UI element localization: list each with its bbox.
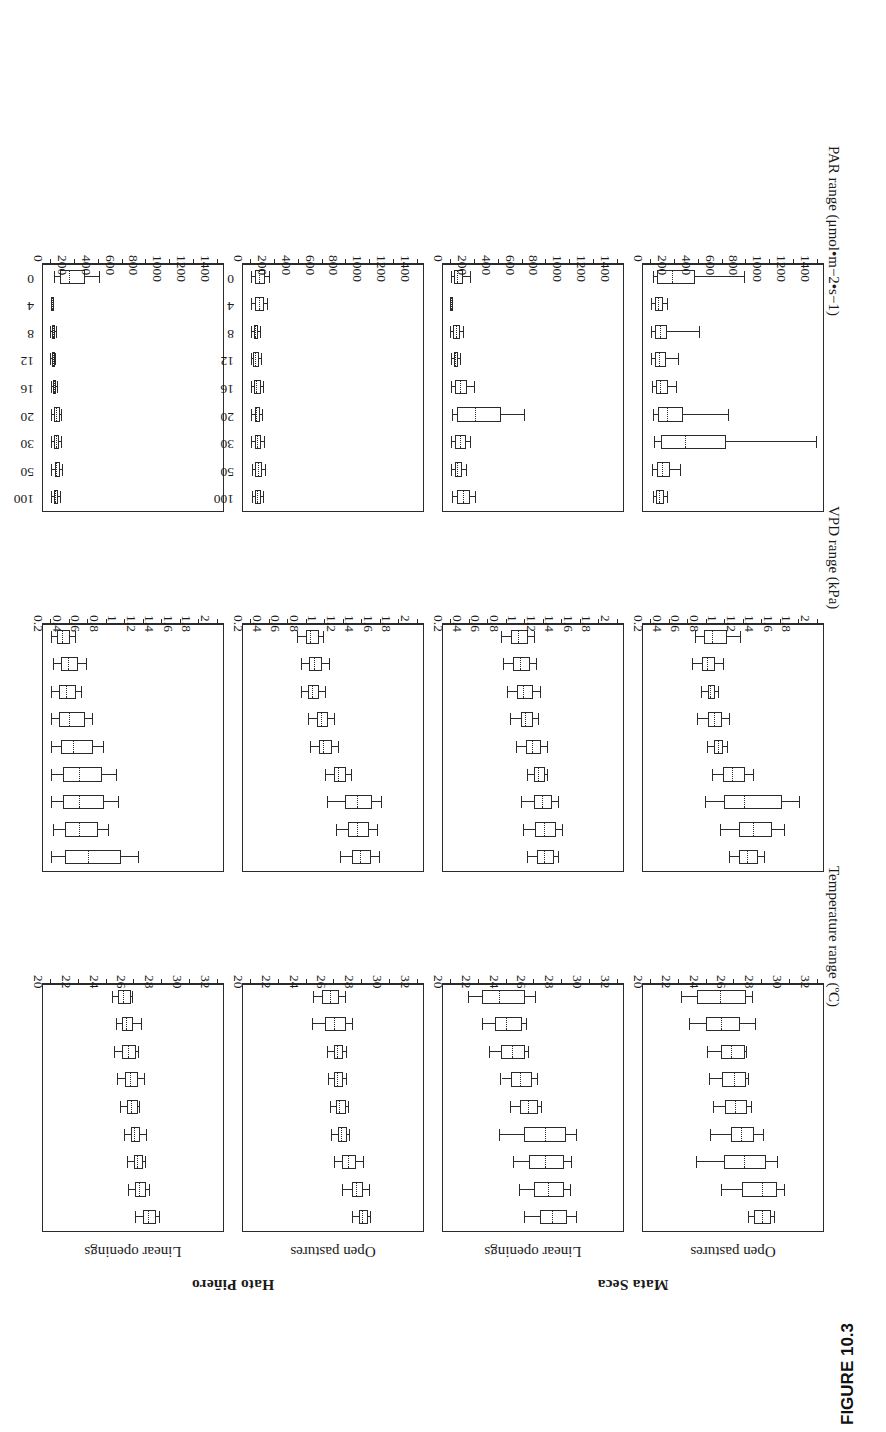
whisker-cap-upper (51, 631, 52, 643)
value-axis-tick (334, 979, 335, 984)
whisker-cap-lower (558, 796, 559, 808)
value-axis-tick-label: 0 (430, 255, 446, 262)
value-axis-tick (269, 619, 270, 624)
value-axis-tick-label: 800 (325, 255, 341, 275)
category-label-8: 8 (27, 326, 34, 342)
value-axis-tick (287, 619, 288, 624)
whisker-cap-lower (265, 464, 266, 476)
value-axis-tick (306, 619, 307, 624)
whisker-cap-lower (264, 436, 265, 448)
whisker-cap-lower (149, 1184, 150, 1196)
whisker-cap-lower (526, 1018, 527, 1030)
category-label-20: 20 (21, 409, 35, 425)
box-iqr (697, 990, 746, 1004)
median-line (339, 1101, 340, 1113)
box-iqr (706, 1017, 741, 1031)
value-axis-tick (398, 619, 399, 624)
whisker-cap-lower (534, 631, 535, 643)
median-line (660, 326, 661, 338)
median-line (744, 796, 745, 808)
median-line (456, 326, 457, 338)
median-line (123, 991, 124, 1003)
whisker-cap-lower (774, 1211, 775, 1223)
box-iqr (143, 1210, 156, 1224)
median-line (88, 851, 89, 863)
median-line (337, 1073, 338, 1085)
figure-rotation-wrapper: Mata SecaHato PiñeroOpen pasturesLinear … (0, 0, 886, 1340)
median-line (499, 991, 500, 1003)
value-axis-tick-label: 22 (258, 975, 274, 989)
plot-area (443, 985, 623, 1231)
median-line (735, 1101, 736, 1113)
box-iqr (537, 850, 554, 864)
whisker-cap-lower (329, 658, 330, 670)
whisker-cap-upper (507, 686, 508, 698)
box-iqr (457, 407, 501, 421)
value-axis-tick-label: 800 (125, 255, 141, 275)
median-line (53, 326, 54, 338)
whisker-cap-upper (251, 353, 252, 365)
whisker-cap-upper (251, 271, 252, 283)
value-axis-tick (543, 619, 544, 624)
whisker-cap-lower (537, 1073, 538, 1085)
value-axis-tick (450, 619, 451, 624)
category-label-16: 16 (221, 381, 235, 397)
whisker-cap-upper (124, 1129, 125, 1141)
box-iqr (724, 795, 782, 809)
box-iqr (754, 1210, 771, 1224)
box-iqr (338, 1127, 348, 1141)
whisker-cap-lower (740, 631, 741, 643)
category-label-100: 100 (214, 491, 234, 507)
whisker-cap-lower (141, 1018, 142, 1030)
whisker-cap-upper (651, 298, 652, 310)
value-axis-tick (417, 619, 418, 624)
panel-title-hp-linear: Linear openings (42, 1243, 224, 1260)
value-axis-tick (250, 979, 251, 984)
median-line (712, 631, 713, 643)
whisker-cap-lower (547, 741, 548, 753)
value-axis-tick (361, 979, 362, 984)
whisker-cap-upper (710, 1129, 711, 1141)
value-axis-tick (217, 259, 218, 264)
group-header-hato-pinero: Hato Piñero (42, 1276, 424, 1294)
median-line (451, 298, 452, 310)
value-axis-tick (78, 979, 79, 984)
value-axis-tick (87, 619, 88, 624)
median-line (762, 1184, 763, 1196)
median-line (79, 796, 80, 808)
whisker-cap-upper (501, 631, 502, 643)
whisker-cap-upper (252, 464, 253, 476)
plot-area (643, 985, 823, 1231)
value-axis-tick (534, 979, 535, 984)
box-iqr (352, 850, 371, 864)
whisker-cap-upper (114, 1046, 115, 1058)
value-axis-tick (278, 979, 279, 984)
value-axis-tick (217, 619, 218, 624)
value-axis-tick (761, 619, 762, 624)
value-axis-tick-label: 800 (725, 255, 741, 275)
panel-par-2 (242, 264, 424, 512)
whisker-cap-lower (139, 1101, 140, 1113)
panel-par-3 (42, 264, 224, 512)
box-iqr (455, 463, 462, 477)
value-axis-tick (324, 619, 325, 624)
box-iqr (61, 657, 78, 671)
value-axis-tick-label: 600 (502, 255, 518, 275)
median-line (54, 381, 55, 393)
box-iqr (118, 990, 131, 1004)
value-axis-tick-label: 600 (102, 255, 118, 275)
box-iqr (526, 740, 541, 754)
box-iqr (655, 352, 665, 366)
median-line (139, 1184, 140, 1196)
whisker-cap-upper (336, 824, 337, 836)
value-axis-tick (650, 259, 651, 264)
median-line (137, 1156, 138, 1168)
whisker-cap-lower (744, 271, 745, 283)
median-line (460, 381, 461, 393)
median-line (257, 436, 258, 448)
value-axis-tick (593, 259, 594, 264)
whisker-cap-upper (695, 631, 696, 643)
whisker-cap-upper (516, 741, 517, 753)
whisker-cap-lower (57, 381, 58, 393)
panel-vpd-0 (642, 624, 824, 872)
